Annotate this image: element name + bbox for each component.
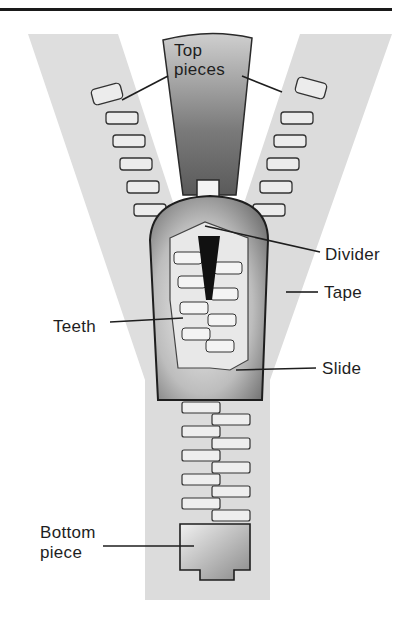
label-tape: Tape xyxy=(324,283,362,302)
label-teeth: Teeth xyxy=(53,317,96,336)
label-bottom-piece-line2: piece xyxy=(40,543,82,562)
label-top-pieces-line2: pieces xyxy=(174,60,225,79)
label-divider: Divider xyxy=(325,245,380,264)
label-slide: Slide xyxy=(322,359,361,378)
label-top-pieces-line1: Top xyxy=(174,41,202,60)
label-bottom-piece-line1: Bottom xyxy=(40,523,96,542)
